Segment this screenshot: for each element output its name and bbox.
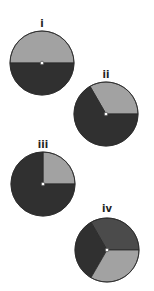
pie-iv-label: iv — [102, 203, 112, 214]
pie-diagram-canvas: i ii iii iv — [0, 0, 154, 291]
pie-i-label: i — [40, 18, 43, 29]
pie-iii-center-pivot — [41, 182, 45, 186]
pie-iii: iii — [11, 139, 75, 216]
pie-i-center-pivot — [40, 61, 44, 65]
pie-i: i — [10, 18, 74, 95]
pie-iv-center-pivot — [105, 248, 109, 252]
pie-ii-label: ii — [103, 69, 110, 80]
pie-iv: iv — [75, 203, 139, 282]
pie-i-slice-dark — [10, 63, 74, 95]
pie-ii: ii — [74, 69, 138, 146]
pie-i-slice-light — [10, 31, 74, 63]
pie-iii-label: iii — [38, 139, 48, 150]
pie-ii-center-pivot — [104, 112, 108, 116]
pie-iii-slice-light — [43, 152, 75, 184]
